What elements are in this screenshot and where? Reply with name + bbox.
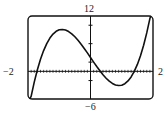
y-min-label: −6 [85,102,96,112]
y-max-label: 12 [84,4,94,14]
x-max-label: 2 [158,67,163,77]
graph-canvas [0,0,168,118]
function-graph: 12 −6 −2 2 [0,0,168,118]
x-min-label: −2 [3,67,14,77]
